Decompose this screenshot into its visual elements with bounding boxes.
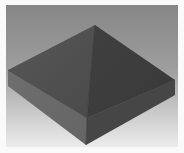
pyramid-box-render — [0, 0, 184, 153]
image-frame — [0, 0, 184, 153]
